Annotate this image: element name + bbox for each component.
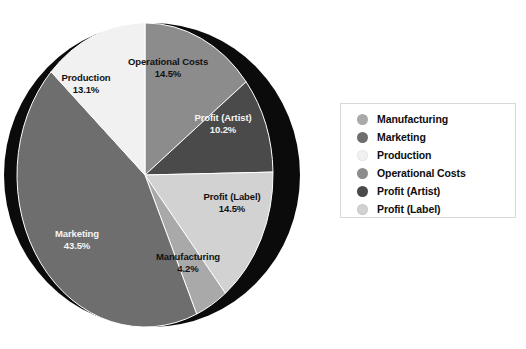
legend-color-swatch-icon [357,150,368,161]
pie-chart-svg [0,0,320,349]
legend-item[interactable]: Operational Costs [357,164,517,182]
legend-item[interactable]: Production [357,146,517,164]
legend-item-label: Profit (Label) [377,203,440,215]
legend-item-label: Operational Costs [377,167,466,179]
legend: ManufacturingMarketingProductionOperatio… [340,103,516,218]
legend-item[interactable]: Manufacturing [357,110,517,128]
legend-color-swatch-icon [357,114,368,125]
legend-item-label: Marketing [377,131,426,143]
legend-color-swatch-icon [357,168,368,179]
legend-color-swatch-icon [357,132,368,143]
legend-item-label: Manufacturing [377,113,448,125]
legend-list: ManufacturingMarketingProductionOperatio… [357,110,517,218]
legend-item[interactable]: Profit (Label) [357,200,517,218]
pie-slices [17,23,273,327]
legend-item[interactable]: Marketing [357,128,517,146]
legend-color-swatch-icon [357,204,368,215]
legend-item-label: Profit (Artist) [377,185,440,197]
legend-color-swatch-icon [357,186,368,197]
legend-item[interactable]: Profit (Artist) [357,182,517,200]
chart-page: Operational Costs14.5%Profit (Artist)10.… [0,0,526,349]
pie-chart: Operational Costs14.5%Profit (Artist)10.… [0,0,320,349]
legend-item-label: Production [377,149,431,161]
